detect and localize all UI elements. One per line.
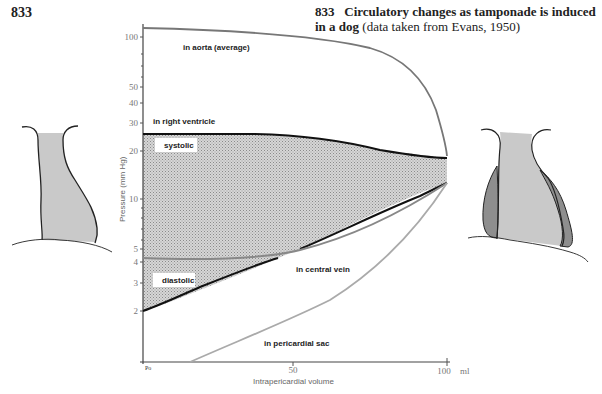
x-tick-100: 100 bbox=[437, 366, 451, 376]
x-tick-50: 50 bbox=[289, 365, 299, 375]
svg-text:100: 100 bbox=[125, 32, 139, 42]
svg-text:5: 5 bbox=[134, 244, 139, 254]
chart: 100 50 40 30 20 10 5 4 3 2 Pressure (mm … bbox=[0, 0, 602, 394]
svg-text:20: 20 bbox=[129, 146, 139, 156]
y-axis-label: Pressure (mm Hg) bbox=[118, 156, 127, 222]
label-pericardial-sac: in pericardial sac bbox=[264, 339, 330, 348]
x-origin-label: Po bbox=[145, 365, 151, 371]
label-diastolic: diastolic bbox=[162, 276, 195, 285]
label-right-ventricle: in right ventricle bbox=[153, 117, 216, 126]
label-aorta: in aorta (average) bbox=[183, 43, 250, 52]
normal-heart-icon bbox=[12, 126, 112, 252]
x-unit-label: ml bbox=[460, 366, 470, 376]
svg-text:30: 30 bbox=[129, 118, 139, 128]
svg-text:10: 10 bbox=[129, 194, 139, 204]
label-systolic: systolic bbox=[164, 141, 194, 150]
svg-text:50: 50 bbox=[129, 82, 139, 92]
svg-text:4: 4 bbox=[134, 257, 139, 267]
label-central-vein: in central vein bbox=[296, 265, 350, 274]
svg-text:3: 3 bbox=[134, 278, 139, 288]
svg-text:40: 40 bbox=[129, 98, 139, 108]
svg-text:2: 2 bbox=[134, 306, 139, 316]
tamponade-heart-icon bbox=[468, 129, 588, 262]
x-axis-label: Intrapericardial volume bbox=[253, 377, 334, 386]
